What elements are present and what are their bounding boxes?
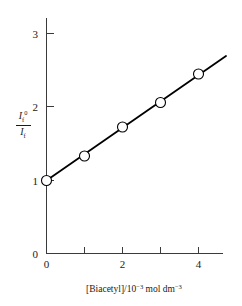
y-axis-denominator-sub: f [24, 132, 26, 139]
x-tick-label-0: 0 [44, 258, 50, 270]
x-axis-title: [Biacetyl]/10−3 mol dm−3 [86, 283, 183, 294]
data-point [118, 122, 128, 132]
data-point [194, 69, 204, 79]
x-axis-title-exp2: −3 [175, 283, 183, 290]
x-tick-label-4: 4 [196, 258, 202, 270]
chart-figure: 3 2 1 0 0 2 4 [Biacetyl]/10−3 mol dm−3 I… [0, 0, 242, 306]
x-tick-label-2: 2 [120, 258, 126, 270]
y-tick-label-3: 3 [33, 28, 39, 40]
data-point [42, 176, 52, 186]
y-tick-labels: 3 2 1 0 [33, 28, 39, 260]
x-axis-title-mid: mol dm [143, 284, 175, 294]
x-axis-ticks [85, 247, 199, 254]
y-axis-title: If0 If [8, 110, 38, 140]
stern-volmer-plot: 3 2 1 0 0 2 4 [Biacetyl]/10−3 mol dm−3 [0, 0, 242, 306]
y-axis-numerator-sub: f [22, 116, 24, 123]
data-point [156, 98, 166, 108]
y-axis-ticks [47, 34, 55, 181]
x-axis-title-prefix: [Biacetyl]/10 [86, 284, 136, 294]
y-axis-title-denominator: If [8, 127, 38, 140]
y-axis-title-numerator: If0 [8, 110, 38, 125]
x-tick-labels: 0 2 4 [44, 258, 202, 270]
data-point [80, 151, 90, 161]
y-tick-label-0: 0 [33, 248, 39, 260]
y-tick-label-1: 1 [33, 175, 39, 187]
y-axis-numerator-sup: 0 [24, 109, 27, 116]
